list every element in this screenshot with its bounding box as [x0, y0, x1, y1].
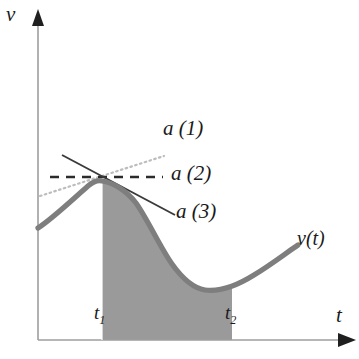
velocity-time-figure: v t a (1) a (2) a (3) v(t) t1 t2 — [0, 0, 359, 359]
tick-label-t2-subscript: 2 — [230, 313, 236, 327]
tick-label-t2: t2 — [225, 303, 236, 326]
velocity-curve-label: v(t) — [297, 228, 325, 248]
tangent-label-a2: a (2) — [171, 163, 211, 184]
tangent-label-a1: a (1) — [163, 118, 203, 139]
tangent-label-a3: a (3) — [176, 201, 216, 222]
tick-label-t1-subscript: 1 — [99, 313, 105, 327]
v-axis-label: v — [6, 4, 15, 25]
v-axis-arrowhead — [32, 9, 44, 26]
tick-label-t1: t1 — [94, 303, 105, 326]
t-axis-arrowhead — [338, 333, 356, 347]
t-axis-label: t — [336, 305, 342, 326]
